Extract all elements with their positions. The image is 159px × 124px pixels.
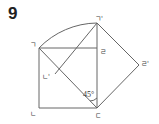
- label-b-prime: ㄴ': [42, 73, 50, 81]
- label-a-prime: ㄱ': [95, 15, 103, 23]
- geometry-figure: ㄱ ㄴ ㄷ ㄹ ㄱ' ㄴ' ㄹ' 45°: [0, 0, 159, 124]
- label-d-prime: ㄹ': [141, 60, 149, 68]
- label-d: ㄹ: [100, 48, 106, 56]
- angle-label: 45°: [83, 90, 94, 99]
- segment-dprime-c: [97, 65, 139, 108]
- label-c: ㄷ: [95, 112, 101, 120]
- label-b: ㄴ: [30, 110, 36, 118]
- arc: [39, 23, 97, 48]
- segment-aprime-dprime: [97, 23, 139, 65]
- label-a: ㄱ: [30, 41, 36, 49]
